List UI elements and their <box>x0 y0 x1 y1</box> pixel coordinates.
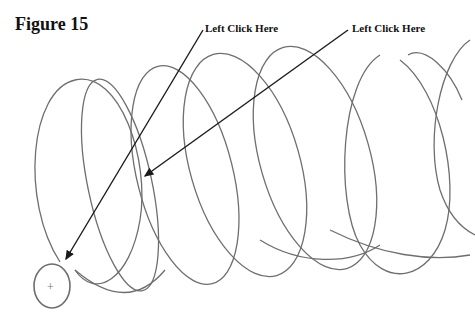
origin-marker: + <box>47 280 54 294</box>
helix-curve[interactable] <box>35 32 475 297</box>
helix-diagram: + <box>0 0 475 329</box>
callout-arrow-1 <box>66 30 203 259</box>
callout-arrow-2 <box>145 30 348 176</box>
